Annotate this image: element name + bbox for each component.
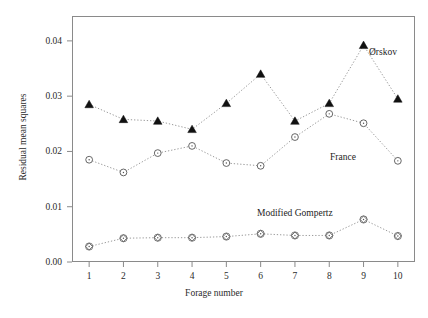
x-tick-label: 8 xyxy=(317,271,341,281)
series-rskov xyxy=(85,41,402,133)
y-tick-label: 0.04 xyxy=(28,36,62,46)
x-tick-label: 10 xyxy=(386,271,410,281)
y-tick-label: 0.01 xyxy=(28,202,62,212)
x-tick-label: 1 xyxy=(77,271,101,281)
chart-figure: 0.000.010.020.030.04 12345678910 Forage … xyxy=(0,0,428,318)
y-axis-title: Residual mean squares xyxy=(18,67,28,207)
series-france xyxy=(86,110,402,175)
x-tick-label: 9 xyxy=(352,271,376,281)
x-tick-label: 7 xyxy=(283,271,307,281)
data-series-group xyxy=(85,41,402,250)
x-tick-label: 5 xyxy=(214,271,238,281)
x-tick-label: 4 xyxy=(180,271,204,281)
series-label-modified-gompertz: Modified Gompertz xyxy=(257,208,333,218)
x-tick-label: 3 xyxy=(146,271,170,281)
x-tick-label: 2 xyxy=(111,271,135,281)
x-axis-title: Forage number xyxy=(0,288,428,298)
y-axis-ticks xyxy=(67,41,72,262)
x-axis-ticks xyxy=(89,262,398,267)
x-tick-label: 6 xyxy=(249,271,273,281)
series-label-france: France xyxy=(330,152,356,162)
y-tick-label: 0.02 xyxy=(28,146,62,156)
y-tick-label: 0.03 xyxy=(28,91,62,101)
y-tick-label: 0.00 xyxy=(28,257,62,267)
series-modified-gompertz xyxy=(86,216,402,250)
series-label-orskov: Ørskov xyxy=(369,47,397,57)
